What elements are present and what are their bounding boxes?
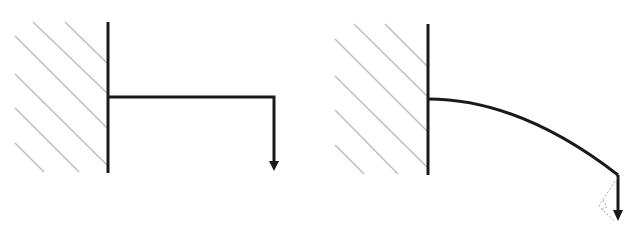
panel-undeformed: [15, 22, 279, 173]
hatch-line: [15, 108, 79, 172]
dashed-reference-line: [599, 178, 617, 221]
hatch-line: [385, 24, 427, 66]
hatch-line: [15, 74, 107, 165]
load-arrow-icon: [613, 210, 623, 221]
panel-deflected: [335, 24, 623, 221]
hatch-line: [335, 76, 427, 167]
hatch-line: [354, 24, 427, 96]
hatch-line: [335, 145, 364, 174]
hatch-line: [15, 143, 44, 172]
hatch-line: [33, 22, 107, 93]
deflected-beam: [428, 99, 618, 175]
cantilever-diagram: [0, 0, 636, 235]
wall-hatching: [15, 22, 107, 172]
hatch-line: [65, 22, 107, 63]
wall-hatching: [335, 24, 427, 174]
load-arrow-icon: [269, 161, 279, 171]
hatch-line: [335, 110, 398, 174]
rotated-load-reference: [599, 178, 617, 221]
straight-beam: [108, 97, 274, 162]
